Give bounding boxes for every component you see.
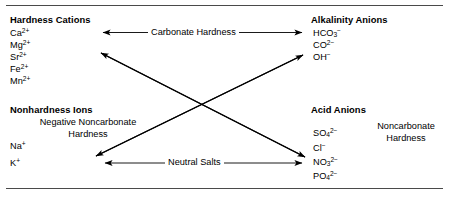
ion-mg: Mg2+ [10, 39, 30, 50]
ion-na: Na+ [10, 140, 26, 151]
label-carbonate-hardness: Carbonate Hardness [148, 27, 239, 37]
note-noncarbonate-hardness: Noncarbonate Hardness [367, 121, 445, 144]
ion-so4: SO42− [313, 127, 337, 138]
note-line-2: Hardness [386, 133, 425, 143]
heading-hardness-cations: Hardness Cations [10, 14, 91, 25]
heading-nonhardness-ions: Nonhardness Ions [10, 104, 93, 115]
note-line-1: Negative Noncarbonate [40, 117, 137, 127]
ion-fe: Fe2+ [10, 63, 28, 74]
ion-hco3: HCO3− [313, 27, 341, 38]
ion-sr: Sr2+ [10, 51, 27, 62]
heading-acid-anions: Acid Anions [311, 104, 366, 115]
diagonal-arrow-lower-left-to-upper-right [96, 55, 303, 156]
ion-ca: Ca2+ [10, 27, 29, 38]
label-neutral-salts: Neutral Salts [165, 157, 224, 167]
diagram-canvas: Hardness Cations Ca2+ Mg2+ Sr2+ Fe2+ Mn2… [0, 0, 449, 197]
ion-mn: Mn2+ [10, 75, 30, 86]
ion-cl: Cl− [313, 142, 326, 153]
ion-co3: CO2− [313, 39, 334, 50]
ion-po4: PO42− [313, 170, 337, 181]
ion-no3: NO32− [313, 156, 338, 167]
note-negative-noncarbonate-hardness: Negative Noncarbonate Hardness [22, 117, 154, 140]
ion-oh: OH− [313, 51, 331, 62]
note-line-2: Hardness [68, 129, 107, 139]
note-line-1: Noncarbonate [377, 121, 435, 131]
heading-alkalinity-anions: Alkalinity Anions [311, 14, 388, 25]
ion-k: K+ [10, 157, 20, 168]
